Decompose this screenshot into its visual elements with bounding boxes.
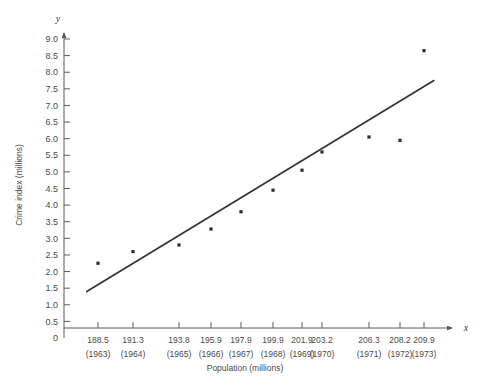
- x-tick-year-label: (1971): [357, 349, 382, 359]
- y-axis-title: Crime index (millions): [14, 144, 24, 226]
- y-tick-label: 3.5: [45, 217, 58, 227]
- x-tick-label: 203.2: [311, 335, 333, 345]
- regression-line: [87, 81, 434, 292]
- x-axis-symbol: x: [463, 322, 469, 333]
- y-tick-label: 0: [53, 333, 58, 343]
- x-tick-year-label: (1970): [310, 349, 335, 359]
- x-tick-year-label: (1968): [261, 349, 286, 359]
- data-point: [422, 49, 425, 52]
- y-tick-label: 1.0: [45, 300, 58, 310]
- y-tick-label: 2.0: [45, 267, 58, 277]
- y-tick-label: 4.0: [45, 200, 58, 210]
- y-tick-label: 5.5: [45, 150, 58, 160]
- y-tick-group: 00.51.01.52.02.53.03.54.04.55.05.56.06.5…: [45, 34, 70, 343]
- y-tick-label: 6.0: [45, 134, 58, 144]
- y-tick-label: 4.5: [45, 184, 58, 194]
- y-tick-label: 2.5: [45, 250, 58, 260]
- y-tick-label: 7.5: [45, 84, 58, 94]
- y-tick-label: 8.5: [45, 51, 58, 61]
- data-point: [239, 210, 242, 213]
- data-point: [300, 169, 303, 172]
- x-tick-year-label: (1964): [121, 349, 146, 359]
- data-point: [177, 243, 180, 246]
- chart-canvas: 00.51.01.52.02.53.03.54.04.55.05.56.06.5…: [0, 0, 479, 390]
- y-tick-label: 9.0: [45, 34, 58, 44]
- data-point: [367, 135, 370, 138]
- trend-line-group: [87, 81, 434, 292]
- y-tick-label: 3.0: [45, 234, 58, 244]
- data-point: [131, 250, 134, 253]
- x-tick-year-label: (1966): [199, 349, 224, 359]
- x-tick-year-label: (1967): [229, 349, 254, 359]
- x-tick-label: 195.9: [200, 335, 222, 345]
- y-tick-label: 6.5: [45, 117, 58, 127]
- scatter-chart: 00.51.01.52.02.53.03.54.04.55.05.56.06.5…: [0, 0, 479, 390]
- x-tick-label: 206.3: [358, 335, 380, 345]
- data-point: [398, 139, 401, 142]
- data-point-group: [96, 49, 425, 265]
- x-tick-label: 188.5: [87, 335, 109, 345]
- x-tick-label: 193.8: [168, 335, 190, 345]
- data-point: [209, 227, 212, 230]
- x-tick-label: 199.9: [262, 335, 284, 345]
- x-tick-year-label: (1965): [167, 349, 192, 359]
- x-tick-year-label: (1973): [412, 349, 437, 359]
- y-tick-label: 5.0: [45, 167, 58, 177]
- data-point: [96, 262, 99, 265]
- y-tick-label: 8.0: [45, 67, 58, 77]
- data-point: [320, 150, 323, 153]
- y-axis-symbol: y: [55, 13, 61, 24]
- data-point: [271, 189, 274, 192]
- x-tick-label: 208.2: [389, 335, 411, 345]
- x-tick-year-label: (1972): [388, 349, 413, 359]
- x-axis-title: Population (millions): [207, 363, 284, 373]
- x-tick-year-label: (1963): [86, 349, 111, 359]
- x-tick-label: 191.3: [122, 335, 144, 345]
- x-tick-label: 209.9: [413, 335, 435, 345]
- y-tick-label: 0.5: [45, 317, 58, 327]
- x-tick-label: 197.9: [230, 335, 252, 345]
- y-tick-label: 7.0: [45, 101, 58, 111]
- y-tick-label: 1.5: [45, 283, 58, 293]
- x-tick-label: 201.9: [291, 335, 313, 345]
